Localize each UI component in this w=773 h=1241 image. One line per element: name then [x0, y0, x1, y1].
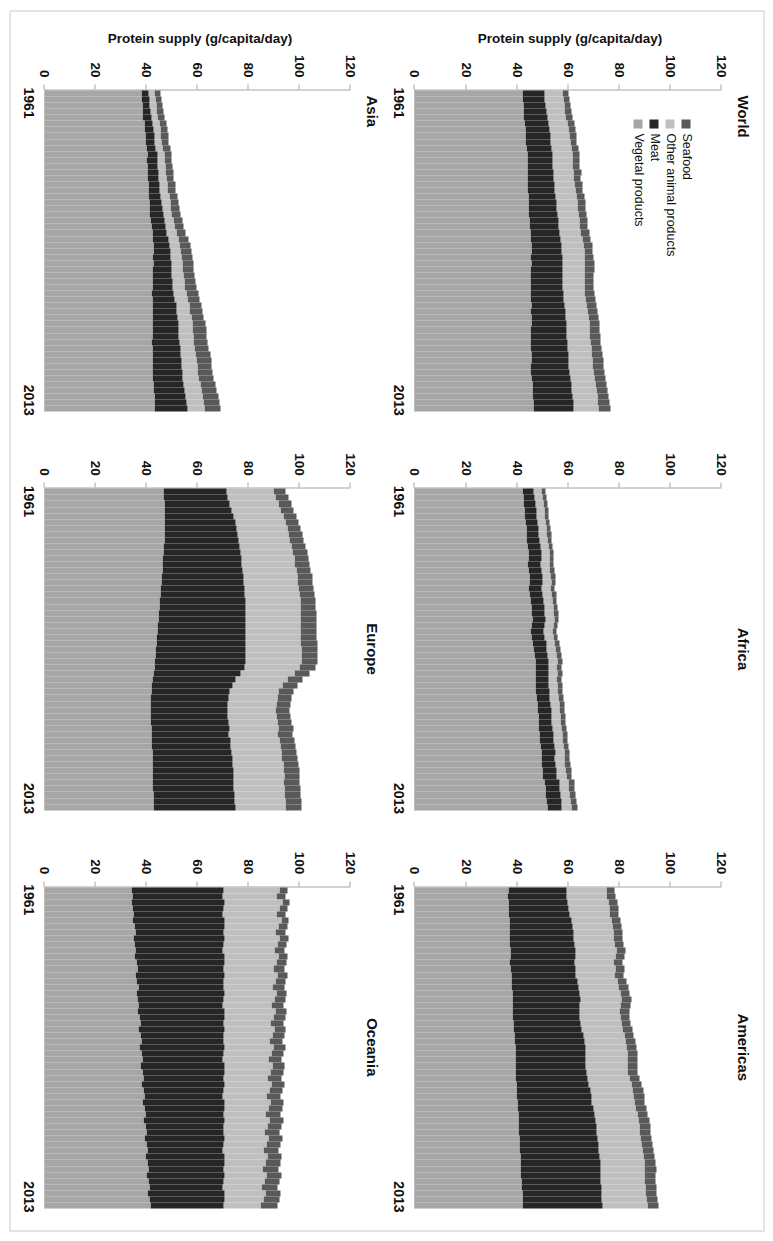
bar-segment-meat [531, 604, 544, 610]
bar-segment-seafood [584, 266, 593, 272]
bar-segment-other-animal-products [596, 1123, 639, 1129]
bar-segment-vegetal-products [44, 610, 158, 616]
bar-segment-meat [146, 1172, 224, 1178]
y-axis-tick-label: 60 [190, 460, 205, 475]
x-axis-start-label: 1961 [391, 87, 407, 118]
y-axis-tick-label: 0 [37, 69, 52, 77]
y-axis-tick: 20 [94, 482, 95, 487]
bar-segment-meat [143, 1087, 224, 1093]
bar-segment-vegetal-products [415, 375, 531, 381]
bar-segment-seafood [182, 260, 193, 266]
stacked-bar [44, 369, 351, 375]
bar-segment-vegetal-products [44, 640, 156, 646]
y-axis-label-text: Protein supply (g/capita/day) [107, 31, 292, 46]
stacked-bar [415, 905, 722, 911]
bar-segment-other-animal-products [164, 217, 173, 223]
stacked-bar [415, 604, 722, 610]
bar-segment-other-animal-products [223, 1123, 266, 1129]
stacked-bar [415, 302, 722, 308]
bar-segment-other-animal-products [222, 911, 276, 917]
bar-segment-meat [518, 1129, 595, 1135]
bar-segment-seafood [271, 1002, 283, 1008]
y-axis-tick: 0 [43, 881, 44, 886]
bar-segment-meat [546, 798, 561, 804]
bar-segment-vegetal-products [415, 604, 531, 610]
bar-segment-other-animal-products [223, 929, 276, 935]
bar-segment-other-animal-products [579, 1002, 620, 1008]
bar-segment-seafood [270, 1099, 283, 1105]
bar-segment-other-animal-products [223, 887, 279, 893]
stacked-bar [44, 555, 351, 561]
bar-segment-meat [164, 537, 238, 543]
bar-segment-meat [531, 351, 568, 357]
bar-segment-meat [152, 320, 178, 326]
stacked-bar [44, 272, 351, 278]
bar-segment-meat [532, 616, 545, 622]
bar-segment-meat [163, 494, 227, 500]
bar-segment-meat [535, 664, 548, 670]
bar-segment-other-animal-products [601, 1190, 645, 1196]
bar-segment-meat [511, 984, 578, 990]
y-axis-tick: 40 [145, 881, 146, 886]
bar-segment-other-animal-products [235, 804, 286, 810]
bar-segment-vegetal-products [44, 399, 154, 405]
bar-segment-other-animal-products [224, 899, 282, 905]
bar-segment-other-animal-products [583, 1032, 624, 1038]
y-axis-tick-label: 0 [37, 468, 52, 476]
stacked-bar [44, 670, 351, 676]
bar-segment-seafood [622, 1026, 632, 1032]
legend: SeafoodOther animal productsMeatVegetal … [631, 119, 693, 256]
bar-segment-other-animal-products [556, 199, 577, 205]
bar-segment-seafood [543, 500, 547, 506]
bar-segment-vegetal-products [44, 531, 164, 537]
y-axis-tick-label: 40 [509, 859, 524, 874]
bar-segment-other-animal-products [223, 978, 275, 984]
stacked-bar [415, 1069, 722, 1075]
bar-segment-seafood [574, 181, 582, 187]
bar-segment-meat [147, 1190, 224, 1196]
bar-segment-other-animal-products [598, 1147, 642, 1153]
bar-segment-other-animal-products [183, 381, 199, 387]
y-axis-tick: 60 [567, 881, 568, 886]
bar-segment-other-animal-products [236, 525, 287, 531]
bar-segment-seafood [591, 345, 602, 351]
stacked-bar [415, 1008, 722, 1014]
bar-segment-meat [144, 1105, 224, 1111]
bar-segment-meat [533, 640, 546, 646]
bar-segment-seafood [263, 1147, 279, 1153]
bar-segment-meat [152, 785, 233, 791]
stacked-bar [415, 507, 722, 513]
panel-grid: Protein supply (g/capita/day)World120100… [14, 27, 755, 1222]
bar-segment-meat [525, 132, 550, 138]
bar-segment-vegetal-products [44, 1044, 139, 1050]
bar-segment-meat [147, 169, 158, 175]
stacked-bar [44, 351, 351, 357]
bar-segment-other-animal-products [597, 1135, 640, 1141]
y-axis-label: Protein supply (g/capita/day) [385, 29, 756, 47]
bar-segment-vegetal-products [415, 1032, 514, 1038]
bar-segment-other-animal-products [223, 1038, 269, 1044]
stacked-bar [44, 773, 351, 779]
bar-segment-seafood [541, 488, 545, 494]
bar-segment-other-animal-products [230, 743, 280, 749]
bar-segment-seafood [265, 1190, 280, 1196]
stacked-bar [415, 1172, 722, 1178]
bar-segment-meat [529, 217, 558, 223]
bar-segment-other-animal-products [559, 779, 568, 785]
bar-segment-seafood [568, 785, 574, 791]
y-axis-tick: 0 [414, 482, 415, 487]
bar-segment-other-animal-products [574, 941, 614, 947]
bar-segment-other-animal-products [224, 1099, 270, 1105]
bar-segment-other-animal-products [224, 1196, 263, 1202]
bar-segment-vegetal-products [415, 1135, 519, 1141]
y-axis-tick-label: 80 [241, 859, 256, 874]
bar-segment-meat [153, 260, 171, 266]
stacked-bar [44, 996, 351, 1002]
bar-segment-vegetal-products [44, 597, 159, 603]
bar-segment-other-animal-products [224, 990, 277, 996]
bar-segment-other-animal-products [171, 266, 182, 272]
bar-segment-other-animal-products [566, 320, 589, 326]
bar-segment-meat [528, 199, 556, 205]
bar-segment-other-animal-products [542, 591, 551, 597]
bar-segment-meat [153, 242, 169, 248]
